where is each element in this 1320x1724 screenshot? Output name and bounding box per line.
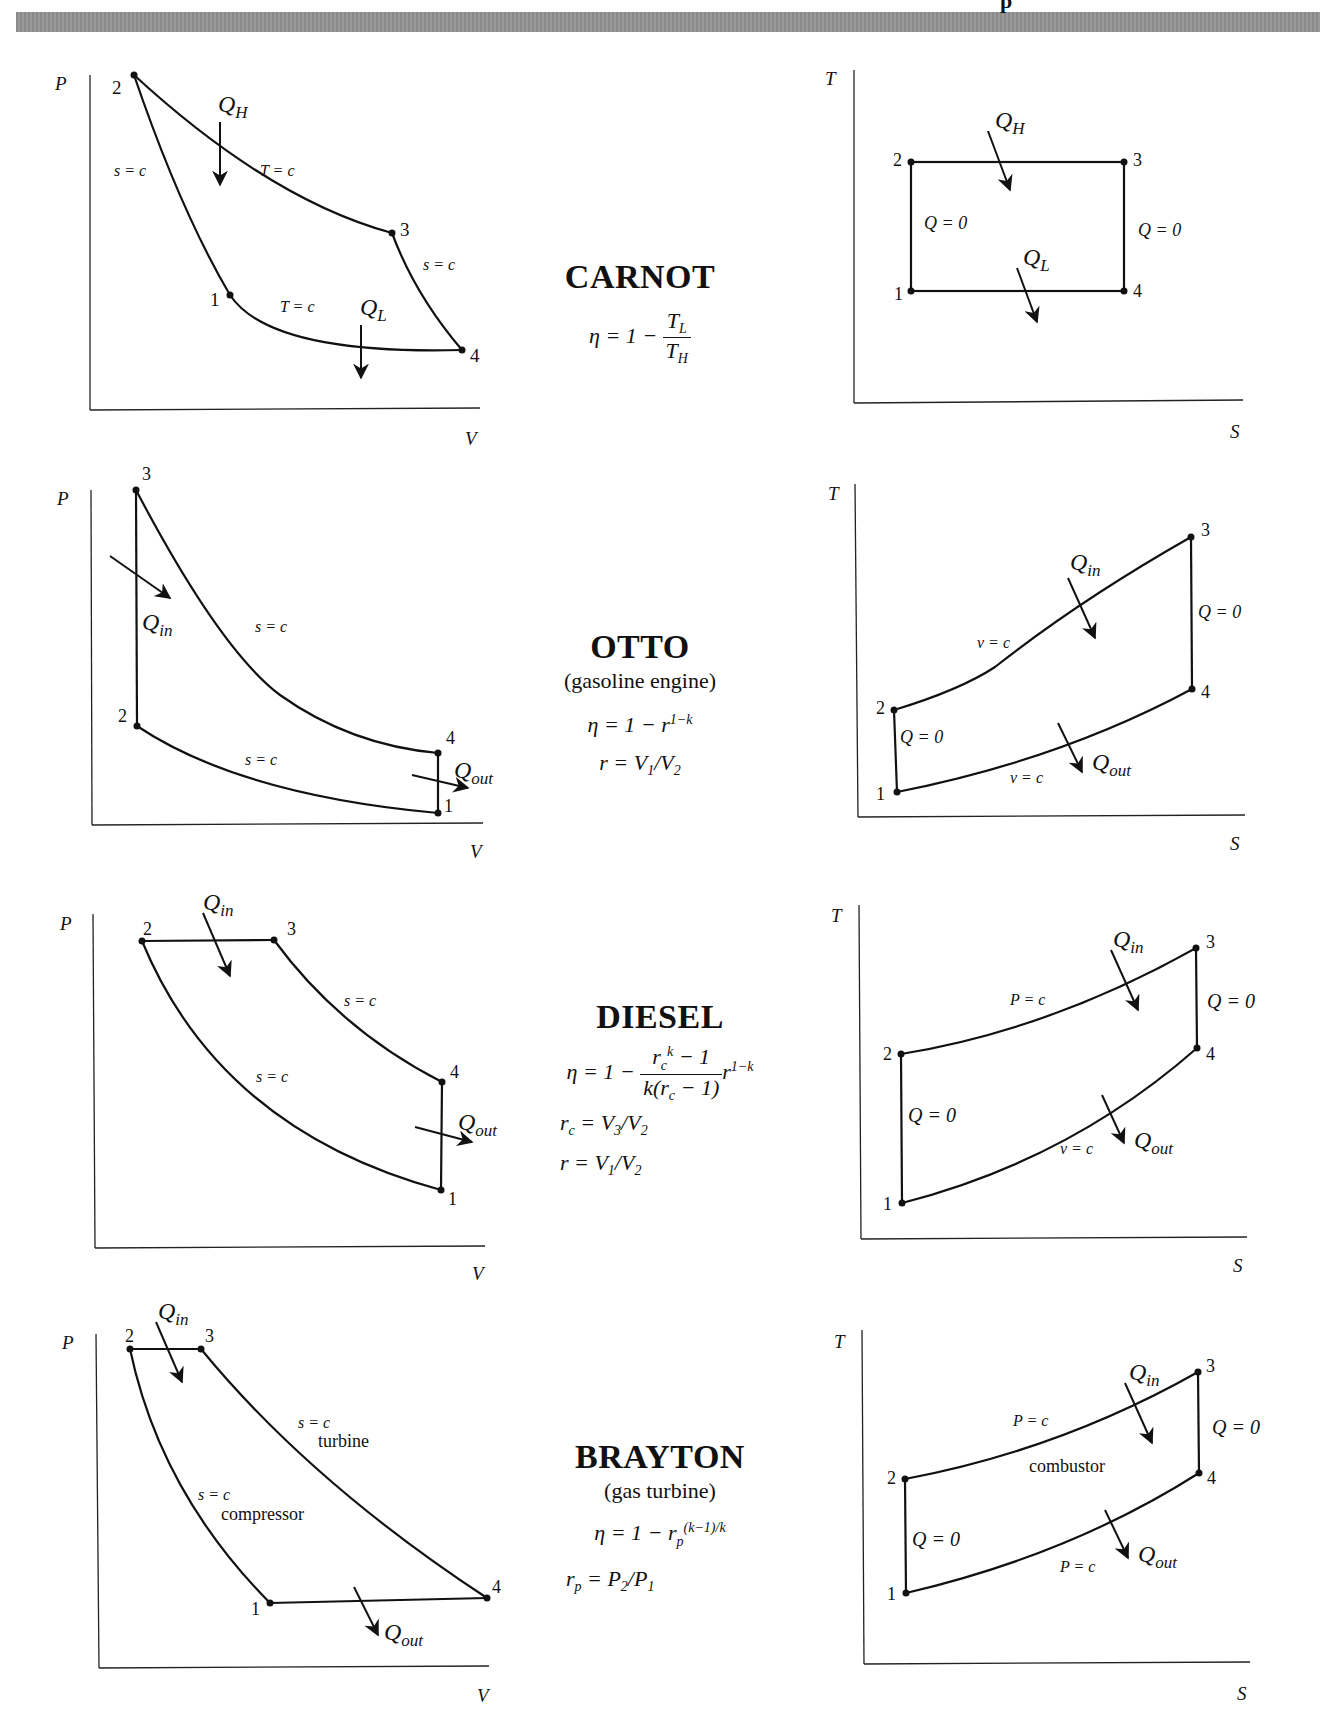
cycle-path [136,490,438,813]
header-band [16,12,1320,32]
cycle-subtitle: (gasoline engine) [510,668,770,694]
brayton-pv-diagram: P V 2 3 4 1 s = c turbine s = c compress… [40,1280,520,1724]
efficiency-formula: η = 1 − rck − 1 k(rc − 1) r1−k [520,1044,800,1104]
y-axis-label: T [828,483,840,504]
process-label: s = c [256,1068,288,1085]
process-label: v = c [1010,769,1043,786]
heat-in-label: Qin [1129,1359,1160,1390]
heat-out-label: Qout [1092,749,1132,780]
y-axis-label: P [56,488,69,509]
x-axis-label: S [1233,1255,1243,1276]
process-label: s = c [255,618,287,635]
carnot-pv-diagram: P V 2 3 1 4 s = c T = c s = c T = c QH Q… [40,60,500,450]
process-label: s = c [298,1414,330,1431]
state-point-1: 1 [883,1194,892,1214]
compression-ratio-formula: r = V1/V2 [520,1150,800,1179]
cycle-path [130,1349,487,1603]
heat-out-label: Qout [1134,1127,1174,1158]
process-label: Q = 0 [908,1104,956,1126]
x-axis-label: V [465,428,479,449]
process-label: Q = 0 [1212,1416,1260,1438]
efficiency-formula: η = 1 − rp(k−1)/k [520,1520,800,1550]
y-axis-label: P [54,73,67,94]
cutoff-ratio-formula: rc = V3/V2 [520,1110,800,1139]
process-label: T = c [280,298,315,315]
component-label-turbine: turbine [318,1431,369,1451]
state-point-4: 4 [450,1062,459,1082]
state-point-2: 2 [883,1044,892,1064]
heat-out-label: QL [1023,244,1050,275]
state-point-1: 1 [444,796,453,816]
state-point-2: 2 [143,919,152,939]
state-point-4: 4 [1201,682,1210,702]
state-point-2: 2 [125,1326,134,1346]
otto-pv-diagram: P V 3 2 4 1 s = c s = c Qin Qout [40,460,520,860]
state-point-4: 4 [1206,1044,1215,1064]
state-point-4: 4 [470,345,480,366]
state-point-3: 3 [1201,520,1210,540]
x-axis-label: S [1230,833,1240,854]
y-axis-label: P [59,913,72,934]
component-label-compressor: compressor [221,1504,304,1524]
process-label: s = c [423,256,455,273]
process-label: Q = 0 [1198,602,1241,622]
cycle-path [901,948,1197,1203]
cycle-title: DIESEL [520,998,800,1036]
state-point-3: 3 [400,219,410,240]
state-point-1: 1 [251,1599,260,1619]
heat-out-label: QL [360,294,387,325]
y-axis-label: P [61,1332,74,1353]
state-point-3: 3 [1206,1356,1215,1376]
process-label: T = c [260,162,295,179]
process-label: v = c [977,634,1010,651]
state-point-4: 4 [1207,1468,1216,1488]
process-label: Q = 0 [912,1528,960,1550]
heat-out-label: Qout [1138,1541,1178,1572]
diesel-pv-diagram: P V 2 3 4 1 s = c s = c Qin Qout [40,880,520,1280]
compression-ratio-formula: r = V1/V2 [510,750,770,779]
state-point-3: 3 [1133,150,1142,170]
y-axis-label: T [834,1331,846,1352]
x-axis-label: V [470,841,484,862]
process-label: Q = 0 [1138,220,1181,240]
cycle-path [142,940,442,1190]
diesel-summary: DIESEL η = 1 − rck − 1 k(rc − 1) r1−k rc… [520,998,800,1179]
process-label: s = c [245,751,277,768]
x-axis-label: S [1230,421,1240,442]
x-axis-label: S [1237,1683,1247,1704]
process-label: s = c [114,162,146,179]
clipped-header-text: p [1000,0,1012,14]
cycle-title: BRAYTON [520,1438,800,1476]
state-point-3: 3 [142,464,151,484]
state-point-1: 1 [887,1584,896,1604]
process-label: Q = 0 [1207,990,1255,1012]
state-point-3: 3 [205,1326,214,1346]
state-point-2: 2 [876,698,885,718]
brayton-ts-diagram: T S 2 3 4 1 P = c P = c Q = 0 Q = 0 comb… [820,1300,1270,1720]
cycle-path [894,537,1192,792]
state-point-3: 3 [1206,932,1215,952]
process-label: s = c [344,992,376,1009]
process-label: P = c [1012,1412,1048,1429]
state-point-1: 1 [894,284,903,304]
state-point-1: 1 [210,289,220,310]
state-point-2: 2 [118,706,127,726]
process-label: s = c [198,1486,230,1503]
process-label: Q = 0 [900,727,943,747]
heat-out-label: Qout [384,1619,424,1650]
component-label-combustor: combustor [1029,1456,1105,1476]
state-point-4: 4 [446,728,455,748]
heat-in-label: Qin [203,889,234,920]
axes [90,75,480,410]
otto-summary: OTTO (gasoline engine) η = 1 − r1−k r = … [510,628,770,780]
state-point-2: 2 [887,1468,896,1488]
cycle-title: CARNOT [510,258,770,296]
diesel-ts-diagram: T S 2 3 4 1 P = c v = c Q = 0 Q = 0 Qin … [820,890,1270,1280]
cycle-subtitle: (gas turbine) [520,1478,800,1504]
process-label: v = c [1060,1140,1093,1157]
otto-ts-diagram: T S 2 3 4 1 v = c v = c Q = 0 Q = 0 Qin … [820,470,1270,860]
heat-in-label: Qin [1113,926,1144,957]
pressure-ratio-formula: rp = P2/P1 [520,1566,800,1595]
process-label: P = c [1009,991,1045,1008]
heat-in-label: Qin [1070,549,1101,580]
